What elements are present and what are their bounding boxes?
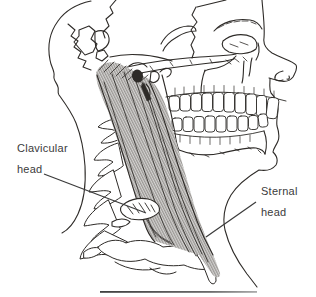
skull-base-line xyxy=(110,54,172,61)
mandible-lower-border xyxy=(179,148,265,155)
orbit-rim xyxy=(222,35,257,54)
mandible-chin-front xyxy=(264,131,266,154)
label-sternal-head-line1: Sternal xyxy=(261,181,298,202)
bottom-rule xyxy=(100,291,257,293)
coronal-suture xyxy=(191,7,197,58)
nostril xyxy=(275,71,290,81)
label-clavicular-head-line2: head xyxy=(17,159,68,180)
parietal-suture xyxy=(103,0,116,38)
face-profile xyxy=(224,0,297,287)
label-clavicular-head: Clavicular head xyxy=(17,138,68,180)
label-clavicular-head-line1: Clavicular xyxy=(17,138,68,159)
label-sternal-head: Sternal head xyxy=(261,181,298,223)
head-back-outline xyxy=(49,1,91,233)
lower-jaw-teeth xyxy=(170,113,268,144)
sternal-head-leader-line xyxy=(206,202,256,237)
profile-outline xyxy=(224,0,297,287)
brow-hatching xyxy=(218,21,256,28)
upper-jaw-teeth xyxy=(166,86,286,120)
label-sternal-head-line2: head xyxy=(261,202,298,223)
spinous-process xyxy=(94,143,123,176)
tragus xyxy=(150,71,159,82)
skull-top-cut-line xyxy=(197,0,226,7)
maxilla-front-edge xyxy=(201,70,205,93)
orbit-and-brow xyxy=(214,19,262,83)
orbit-shading xyxy=(230,42,248,47)
wormian-bone xyxy=(95,31,109,51)
lower-teeth-row xyxy=(172,113,268,132)
wormian-bone xyxy=(96,50,108,61)
small-bone-lump xyxy=(112,219,130,227)
anatomy-figure: Clavicular head Sternal head xyxy=(0,0,316,297)
